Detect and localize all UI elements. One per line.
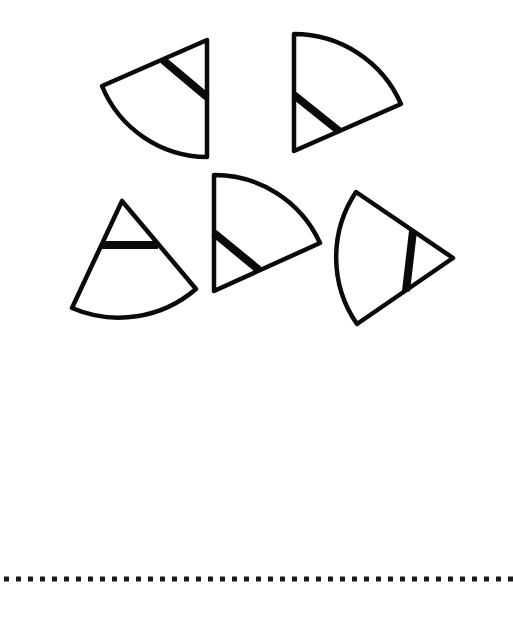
divider-dot	[268, 577, 273, 582]
divider-dot	[244, 577, 249, 582]
sector-shapes	[72, 34, 453, 324]
divider-dot	[100, 577, 105, 582]
divider-dot	[448, 577, 453, 582]
divider-dot	[508, 577, 513, 582]
divider-dot	[16, 577, 21, 582]
divider-dot	[280, 577, 285, 582]
sector-outline	[72, 201, 196, 318]
sector-shape	[294, 34, 401, 151]
sector-shape	[214, 175, 320, 291]
divider-dot	[304, 577, 309, 582]
divider-dot	[28, 577, 33, 582]
divider-dot	[388, 577, 393, 582]
divider-dot	[112, 577, 117, 582]
divider-dot	[376, 577, 381, 582]
sector-outline	[294, 34, 401, 151]
sector-shape	[72, 201, 196, 318]
sector-outline	[336, 192, 453, 324]
divider-dot	[184, 577, 189, 582]
divider-dot	[196, 577, 201, 582]
divider-dot	[424, 577, 429, 582]
divider-dot	[220, 577, 225, 582]
divider-dot	[40, 577, 45, 582]
divider-dot	[4, 577, 9, 582]
sector-shape	[336, 192, 453, 324]
divider-dot	[400, 577, 405, 582]
divider-dot	[412, 577, 417, 582]
divider-dot	[292, 577, 297, 582]
worksheet-canvas	[0, 0, 513, 619]
sector-shape	[102, 40, 207, 157]
divider-dot	[460, 577, 465, 582]
divider-dot	[232, 577, 237, 582]
divider-dot	[172, 577, 177, 582]
divider-dot	[352, 577, 357, 582]
divider-dot	[160, 577, 165, 582]
divider-dot	[88, 577, 93, 582]
sector-outline	[214, 175, 320, 291]
divider-dot	[208, 577, 213, 582]
dotted-divider-line	[4, 577, 513, 582]
sector-outline	[102, 40, 207, 157]
divider-dot	[316, 577, 321, 582]
divider-dot	[136, 577, 141, 582]
divider-dot	[124, 577, 129, 582]
divider-dot	[340, 577, 345, 582]
divider-dot	[256, 577, 261, 582]
divider-dot	[436, 577, 441, 582]
divider-dot	[496, 577, 501, 582]
divider-dot	[472, 577, 477, 582]
divider-dot	[364, 577, 369, 582]
divider-dot	[64, 577, 69, 582]
divider-dot	[328, 577, 333, 582]
divider-dot	[148, 577, 153, 582]
divider-dot	[484, 577, 489, 582]
divider-dot	[52, 577, 57, 582]
divider-dot	[76, 577, 81, 582]
